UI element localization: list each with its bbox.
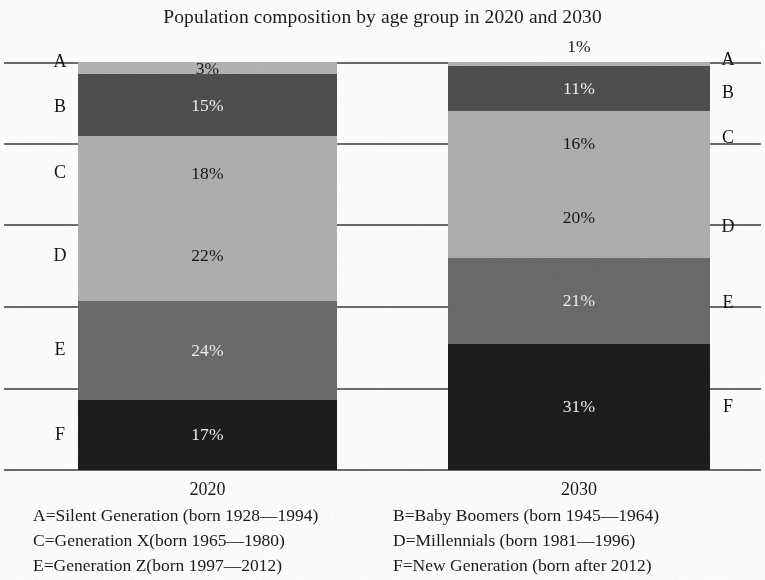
axis-label-left-b: B (48, 96, 72, 117)
axis-label-right-e: E (716, 292, 740, 313)
chart-legend: A=Silent Generation (born 1928—1994) B=B… (0, 503, 765, 580)
legend-row: A=Silent Generation (born 1928—1994) B=B… (0, 503, 765, 528)
xtick-label-2030: 2030 (448, 479, 710, 500)
axis-label-right-c: C (716, 127, 740, 148)
data-label-2020-D: 22% (191, 245, 224, 266)
bar-segment-2030-D[interactable]: 20% (448, 176, 710, 258)
bar-segment-2030-F[interactable]: 31% (448, 344, 710, 470)
legend-item-c: C=Generation X(born 1965—1980) (0, 528, 393, 553)
bar-segment-2020-F[interactable]: 17% (78, 400, 337, 470)
data-label-2020-C: 18% (191, 163, 224, 184)
axis-label-left-e: E (48, 339, 72, 360)
bar-segment-2020-A[interactable]: 3% (78, 62, 337, 74)
data-label-2030-A: 1% (448, 36, 710, 57)
data-label-2030-B: 11% (563, 78, 595, 99)
data-label-2020-E: 24% (191, 340, 224, 361)
data-label-2030-C: 16% (563, 133, 596, 154)
plot-area: 3%15%18%22%24%17% 11%16%20%21%31% 1% ABC… (0, 0, 765, 475)
legend-row: E=Generation Z(born 1997—2012) F=New Gen… (0, 553, 765, 578)
bar-segment-2030-E[interactable]: 21% (448, 258, 710, 344)
bar-2030[interactable]: 11%16%20%21%31% (448, 62, 710, 470)
bar-segment-2020-C[interactable]: 18% (78, 136, 337, 210)
bar-2020[interactable]: 3%15%18%22%24%17% (78, 62, 337, 470)
legend-row: C=Generation X(born 1965—1980) D=Millenn… (0, 528, 765, 553)
legend-item-d: D=Millennials (born 1981—1996) (393, 528, 765, 553)
bar-segment-2020-E[interactable]: 24% (78, 301, 337, 400)
data-label-2020-F: 17% (191, 424, 224, 445)
axis-label-right-f: F (716, 396, 740, 417)
bar-segment-2030-B[interactable]: 11% (448, 66, 710, 111)
data-label-2030-E: 21% (563, 290, 596, 311)
axis-label-right-b: B (716, 82, 740, 103)
legend-item-f: F=New Generation (born after 2012) (393, 553, 765, 578)
xtick-label-2020: 2020 (78, 479, 337, 500)
axis-label-left-d: D (48, 245, 72, 266)
legend-item-b: B=Baby Boomers (born 1945—1964) (393, 503, 765, 528)
bar-segment-2030-C[interactable]: 16% (448, 111, 710, 176)
legend-item-e: E=Generation Z(born 1997—2012) (0, 553, 393, 578)
data-label-2020-B: 15% (191, 95, 224, 116)
legend-item-a: A=Silent Generation (born 1928—1994) (0, 503, 393, 528)
bar-segment-2020-B[interactable]: 15% (78, 74, 337, 136)
data-label-2030-D: 20% (563, 207, 596, 228)
axis-label-right-d: D (716, 216, 740, 237)
data-label-2030-F: 31% (563, 396, 596, 417)
axis-label-right-a: A (716, 49, 740, 70)
axis-label-left-a: A (48, 51, 72, 72)
bar-segment-2020-D[interactable]: 22% (78, 210, 337, 301)
axis-label-left-c: C (48, 162, 72, 183)
axis-label-left-f: F (48, 424, 72, 445)
